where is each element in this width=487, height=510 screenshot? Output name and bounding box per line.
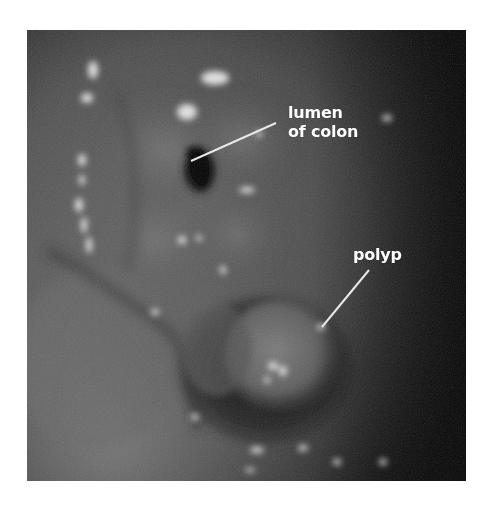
endoscopy-photo: lumen of colon polyp bbox=[27, 30, 466, 481]
lumen-label: lumen of colon bbox=[288, 103, 358, 141]
polyp-label: polyp bbox=[353, 245, 402, 264]
lumen-label-line2: of colon bbox=[288, 122, 358, 141]
lumen-label-line1: lumen bbox=[288, 103, 358, 122]
